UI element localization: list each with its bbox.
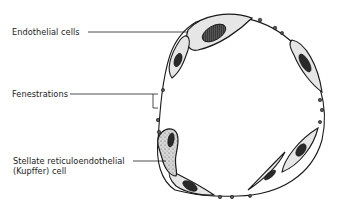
label-kupffer-line2: (Kupffer) cell — [13, 166, 66, 176]
label-fenestrations: Fenestrations — [12, 89, 68, 99]
endothelial-cell-right-lower — [282, 128, 318, 172]
leader-fenestrations — [70, 94, 158, 108]
endothelial-cell-top-left — [169, 36, 189, 78]
label-kupffer-line1: Stellate reticuloendothelial — [13, 156, 125, 166]
endothelial-cell-top — [186, 14, 252, 50]
endothelial-cell-bottom-right — [248, 152, 285, 190]
endothelial-cell-right-upper — [290, 40, 322, 92]
label-endothelial-cells: Endothelial cells — [12, 27, 80, 37]
